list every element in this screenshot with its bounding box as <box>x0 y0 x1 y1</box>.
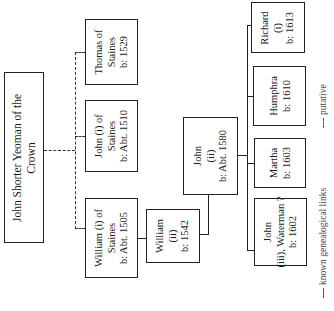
legend-label: known genealogical links <box>318 188 328 285</box>
person-box-john-ii: John (ii) b: Abt. 1580 <box>183 117 238 195</box>
ordinal-line: (ii) <box>167 219 180 253</box>
birth-line: b: Abt. 1580 <box>217 130 230 182</box>
name-line: Crown <box>24 93 38 221</box>
known-link-william-ii-stem <box>200 234 208 235</box>
dashed-line-icon <box>323 118 324 128</box>
name-line: John (i) of <box>93 110 106 162</box>
person-name: John (iii), Waterman ? b: 1602 <box>262 197 300 268</box>
name-line: Richard <box>259 11 272 44</box>
legend-known: known genealogical links <box>318 188 328 298</box>
birth-line: b: 1610 <box>280 76 293 116</box>
person-box-william-i: William (i) of Staines b: Abt. 1505 <box>85 198 138 278</box>
person-name: Martha b: 1603 <box>268 147 293 179</box>
birth-line: b: 1603 <box>280 147 293 179</box>
person-box-john-iii: John (iii), Waterman ? b: 1602 <box>254 198 307 266</box>
place-line: Staines <box>105 29 118 74</box>
name-line: John <box>262 197 275 268</box>
birth-line: b: 1542 <box>179 219 192 253</box>
name-line: Humphra <box>267 76 280 116</box>
legend-putative: putative <box>318 84 328 128</box>
ordinal-line: (ii) <box>204 130 217 182</box>
person-box-humphra: Humphra b: 1610 <box>253 66 306 126</box>
putative-link-root-stem <box>44 150 75 151</box>
solid-line-icon <box>323 288 324 298</box>
name-line: William <box>154 219 167 253</box>
person-box-john-i: John (i) of Staines b: Abt. 1510 <box>85 100 138 172</box>
place-line: Staines <box>105 110 118 162</box>
person-name: John (i) of Staines b: Abt. 1510 <box>93 110 131 162</box>
putative-link-william-i <box>75 228 85 229</box>
known-link-william-i-to-william-ii <box>138 238 146 239</box>
name-line: Martha <box>268 147 281 179</box>
person-box-martha: Martha b: 1603 <box>254 138 306 188</box>
person-name: Richard (i) b: 1613 <box>259 11 297 44</box>
known-link-william-ii-riser <box>208 195 209 235</box>
person-name: John (ii) b: Abt. 1580 <box>192 130 230 182</box>
person-name: Humphra b: 1610 <box>267 76 292 116</box>
name-line: Thomas of <box>93 29 106 74</box>
birth-line: b: Abt. 1505 <box>118 209 131 267</box>
putative-link-thomas <box>75 52 85 53</box>
birth-line: b: 1613 <box>284 11 297 44</box>
birth-line: b: 1529 <box>118 29 131 74</box>
known-link-children-bracket <box>247 25 248 251</box>
ordinal-line: (iii), Waterman ? <box>274 197 287 268</box>
name-line: John Shorter Yeoman of the <box>10 93 24 221</box>
known-link-john-iii <box>247 250 254 251</box>
place-line: Staines <box>105 209 118 267</box>
name-line: William (i) of <box>93 209 106 267</box>
birth-line: b: Abt. 1510 <box>118 110 131 162</box>
name-line: John <box>192 130 205 182</box>
legend-label: putative <box>318 84 328 115</box>
person-box-william-ii: William (ii) b: 1542 <box>146 209 200 263</box>
ordinal-line: (i) <box>272 11 285 44</box>
putative-link-bracket <box>75 52 76 229</box>
birth-line: b: 1602 <box>287 197 300 268</box>
person-box-john-shorter: John Shorter Yeoman of the Crown <box>4 72 44 243</box>
putative-link-john-i <box>75 136 85 137</box>
person-name: Thomas of Staines b: 1529 <box>93 29 131 74</box>
person-name: William (i) of Staines b: Abt. 1505 <box>93 209 131 267</box>
known-link-martha <box>247 163 254 164</box>
person-name: John Shorter Yeoman of the Crown <box>10 93 38 221</box>
person-name: William (ii) b: 1542 <box>154 219 192 253</box>
person-box-richard-i: Richard (i) b: 1613 <box>251 2 305 53</box>
person-box-thomas: Thomas of Staines b: 1529 <box>85 19 138 85</box>
